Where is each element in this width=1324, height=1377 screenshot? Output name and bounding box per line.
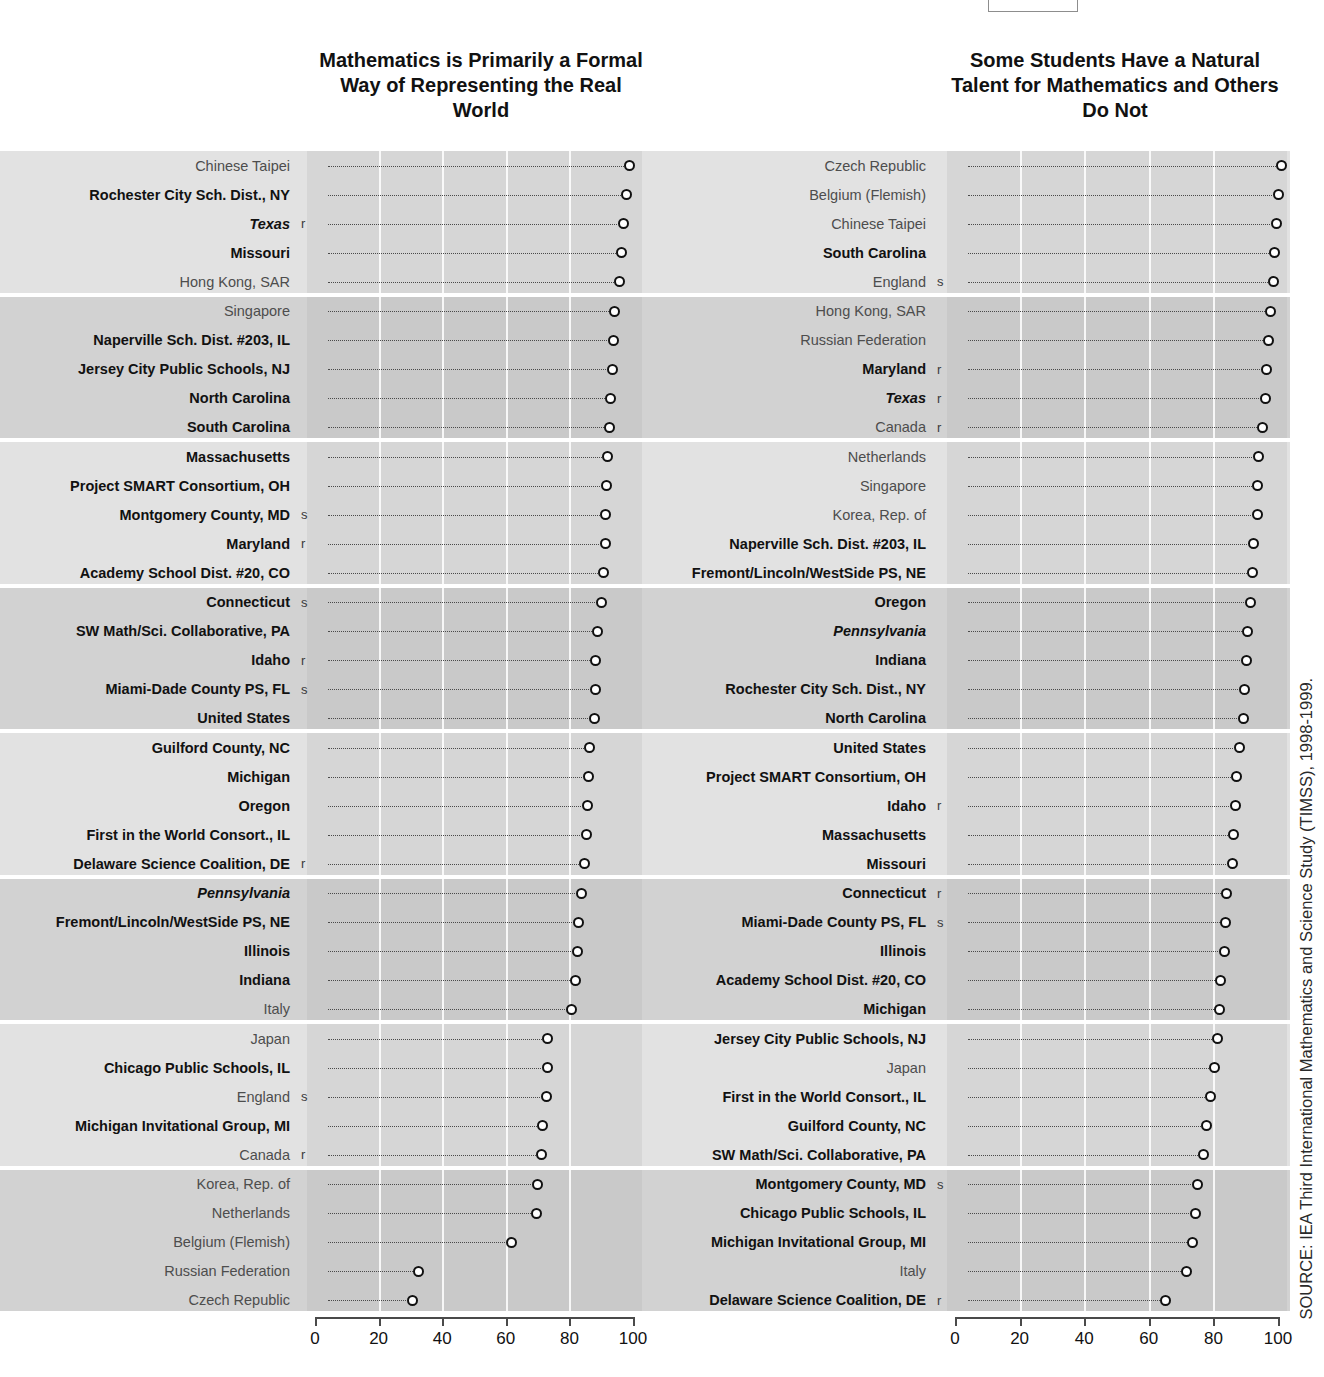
chart-row: Italy: [650, 1257, 1290, 1286]
data-point: [1201, 1120, 1212, 1131]
data-point: [1269, 247, 1280, 258]
leader-line: [968, 224, 1270, 225]
row-label-cell: Missouri: [650, 856, 933, 872]
row-label-cell: Chicago Public Schools, IL: [0, 1060, 297, 1076]
leader-line: [968, 195, 1272, 196]
chart-row: Chinese Taipei: [0, 151, 652, 180]
row-label-cell: England: [650, 274, 933, 290]
row-label-cell: Indiana: [0, 972, 297, 988]
row-label: Michigan: [863, 1001, 926, 1017]
row-label: Naperville Sch. Dist. #203, IL: [729, 536, 926, 552]
row-flag: s: [297, 507, 325, 522]
leader-line: [328, 951, 571, 952]
leader-line: [968, 457, 1252, 458]
row-plot-cell: [325, 500, 652, 529]
chart-row: Singapore: [0, 297, 652, 326]
row-label: Connecticut: [206, 594, 290, 610]
leader-line: [328, 311, 609, 312]
data-point: [592, 626, 603, 637]
leader-line: [968, 340, 1263, 341]
chart-row: Netherlands: [0, 1199, 652, 1228]
leader-line: [328, 1155, 536, 1156]
row-flag: r: [933, 1293, 961, 1308]
row-label-cell: Connecticut: [0, 594, 297, 610]
row-label: Texas: [249, 216, 290, 232]
data-point: [618, 218, 629, 229]
data-point: [579, 858, 590, 869]
row-label-cell: Miami-Dade County PS, FL: [650, 914, 933, 930]
row-label-cell: Academy School Dist. #20, CO: [0, 565, 297, 581]
row-plot-cell: [961, 326, 1290, 355]
axis-tick: [1278, 1317, 1280, 1326]
data-point: [1263, 335, 1274, 346]
row-plot-cell: [325, 966, 652, 995]
chart-row: Italy: [0, 995, 652, 1024]
leader-line: [968, 1300, 1160, 1301]
data-point: [1261, 364, 1272, 375]
row-plot-cell: [325, 151, 652, 180]
leader-line: [968, 864, 1226, 865]
row-label-cell: Chicago Public Schools, IL: [650, 1205, 933, 1221]
leader-line: [328, 1126, 537, 1127]
chart-row: Marylandr: [650, 355, 1290, 384]
chart-row: Guilford County, NC: [650, 1111, 1290, 1140]
row-plot-cell: [961, 675, 1290, 704]
row-plot-cell: [961, 209, 1290, 238]
row-label-cell: Rochester City Sch. Dist., NY: [650, 681, 933, 697]
row-label-cell: Illinois: [650, 943, 933, 959]
row-label: North Carolina: [189, 390, 290, 406]
data-point: [598, 567, 609, 578]
chart-row: Connecticuts: [0, 588, 652, 617]
chart-row: Singapore: [650, 471, 1290, 500]
row-label: Project SMART Consortium, OH: [706, 769, 926, 785]
leader-line: [328, 515, 600, 516]
chart-row: SW Math/Sci. Collaborative, PA: [0, 617, 652, 646]
axis-tick-label: 80: [560, 1329, 579, 1349]
row-plot-cell: [325, 355, 652, 384]
row-plot-cell: [961, 384, 1290, 413]
row-plot-cell: [961, 442, 1290, 471]
row-plot-cell: [325, 820, 652, 849]
row-plot-cell: [325, 442, 652, 471]
row-plot-cell: [325, 471, 652, 500]
row-label: Canada: [875, 419, 926, 435]
chart-row: Japan: [650, 1053, 1290, 1082]
row-flag: r: [933, 362, 961, 377]
row-flag: s: [933, 915, 961, 930]
row-label-cell: Naperville Sch. Dist. #203, IL: [650, 536, 933, 552]
data-point: [614, 276, 625, 287]
row-label-cell: Indiana: [650, 652, 933, 668]
leader-line: [328, 195, 621, 196]
chart-row: Texasr: [650, 384, 1290, 413]
row-label-cell: Guilford County, NC: [650, 1118, 933, 1134]
data-point: [1247, 567, 1258, 578]
leader-line: [968, 1213, 1189, 1214]
leader-line: [968, 282, 1268, 283]
row-label: Project SMART Consortium, OH: [70, 478, 290, 494]
x-axis-left: 020406080100: [0, 1317, 652, 1363]
panel-formal-way: Mathematics is Primarily a Formal Way of…: [0, 32, 652, 1322]
leader-line: [968, 777, 1231, 778]
chart-row: Massachusetts: [650, 820, 1290, 849]
axis-tick-label: 100: [619, 1329, 647, 1349]
row-plot-cell: [325, 646, 652, 675]
data-point: [583, 771, 594, 782]
row-label: Miami-Dade County PS, FL: [106, 681, 291, 697]
data-point: [1187, 1237, 1198, 1248]
row-plot-cell: [961, 849, 1290, 878]
data-point: [1198, 1149, 1209, 1160]
data-point: [581, 829, 592, 840]
leader-line: [328, 427, 604, 428]
chart-row: Englands: [0, 1082, 652, 1111]
row-label: Chinese Taipei: [195, 158, 290, 174]
data-point: [1205, 1091, 1216, 1102]
leader-line: [968, 835, 1228, 836]
axis-tick-label: 60: [496, 1329, 515, 1349]
axis-tick: [442, 1317, 444, 1326]
row-plot-cell: [325, 1082, 652, 1111]
row-label: Montgomery County, MD: [756, 1176, 927, 1192]
row-label-cell: Hong Kong, SAR: [650, 303, 933, 319]
chart-row: North Carolina: [650, 704, 1290, 733]
row-plot-cell: [961, 646, 1290, 675]
chart-row: Michigan: [650, 995, 1290, 1024]
